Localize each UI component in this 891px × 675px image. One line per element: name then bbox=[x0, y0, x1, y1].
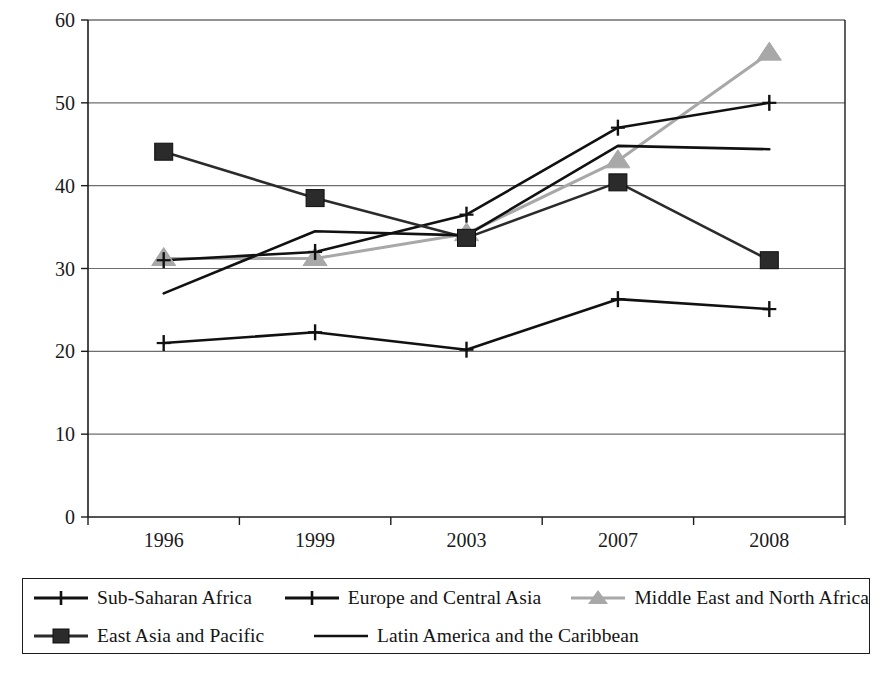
x-tick-label: 2007 bbox=[598, 529, 638, 551]
data-point-marker-square bbox=[155, 143, 173, 160]
legend-item-latin-america-and-the-caribbean[interactable]: Latin America and the Caribbean bbox=[313, 617, 643, 655]
x-axis-ticks bbox=[88, 517, 845, 525]
y-tick-label: 30 bbox=[55, 258, 75, 280]
data-point-marker-plus bbox=[308, 324, 322, 340]
legend-label: Sub-Saharan Africa bbox=[97, 587, 252, 609]
y-axis-labels: 0102030405060 bbox=[55, 9, 75, 528]
y-tick-label: 40 bbox=[55, 175, 75, 197]
y-tick-label: 20 bbox=[55, 340, 75, 362]
chart-page: 0102030405060 19961999200320072008 Sub-S… bbox=[0, 0, 891, 675]
legend-swatch-square-icon bbox=[33, 626, 89, 646]
data-point-marker-plus bbox=[157, 335, 171, 351]
y-tick-label: 50 bbox=[55, 92, 75, 114]
data-point-marker-square bbox=[609, 174, 627, 191]
legend-item-europe-and-central-asia[interactable]: Europe and Central Asia bbox=[284, 579, 571, 617]
data-point-marker-square bbox=[760, 252, 778, 269]
data-point-marker-plus bbox=[762, 301, 776, 317]
y-tick-label: 60 bbox=[55, 9, 75, 31]
data-point-marker-triangle bbox=[757, 42, 781, 60]
data-point-marker-square bbox=[306, 190, 324, 207]
x-tick-label: 1996 bbox=[144, 529, 184, 551]
legend-row: East Asia and PacificLatin America and t… bbox=[23, 617, 869, 655]
series-markers bbox=[152, 42, 782, 358]
y-tick-label: 0 bbox=[65, 506, 75, 528]
legend-label: Europe and Central Asia bbox=[348, 587, 541, 609]
x-axis-labels: 19961999200320072008 bbox=[144, 529, 790, 551]
data-point-marker-plus bbox=[460, 342, 474, 358]
data-point-marker-plus bbox=[460, 207, 474, 223]
data-point-marker-triangle bbox=[606, 150, 630, 168]
legend-swatch-plus-icon bbox=[33, 588, 89, 608]
legend-swatch-line-icon bbox=[313, 626, 369, 646]
chart-legend: Sub-Saharan AfricaEurope and Central Asi… bbox=[22, 578, 870, 654]
data-point-marker-plus bbox=[762, 95, 776, 111]
legend-item-sub-saharan-africa[interactable]: Sub-Saharan Africa bbox=[33, 579, 284, 617]
line-chart: 0102030405060 19961999200320072008 bbox=[0, 0, 891, 560]
legend-item-middle-east-and-north-africa[interactable]: Middle East and North Africa bbox=[570, 579, 869, 617]
x-tick-label: 2003 bbox=[447, 529, 487, 551]
legend-item-east-asia-and-pacific[interactable]: East Asia and Pacific bbox=[33, 617, 313, 655]
legend-label: Latin America and the Caribbean bbox=[377, 625, 639, 647]
legend-swatch-triangle-icon bbox=[570, 588, 626, 608]
data-point-marker-square bbox=[458, 229, 476, 246]
series-lines bbox=[164, 53, 770, 350]
y-axis-ticks bbox=[81, 20, 88, 517]
x-tick-label: 1999 bbox=[295, 529, 335, 551]
legend-label: Middle East and North Africa bbox=[634, 587, 869, 609]
y-tick-label: 10 bbox=[55, 423, 75, 445]
x-tick-label: 2008 bbox=[749, 529, 789, 551]
legend-label: East Asia and Pacific bbox=[97, 625, 264, 647]
data-point-marker-plus bbox=[611, 291, 625, 307]
chart-canvas: 0102030405060 19961999200320072008 bbox=[0, 0, 891, 560]
data-point-marker-plus bbox=[611, 120, 625, 136]
legend-swatch-plus-icon bbox=[284, 588, 340, 608]
legend-row: Sub-Saharan AfricaEurope and Central Asi… bbox=[23, 579, 869, 617]
